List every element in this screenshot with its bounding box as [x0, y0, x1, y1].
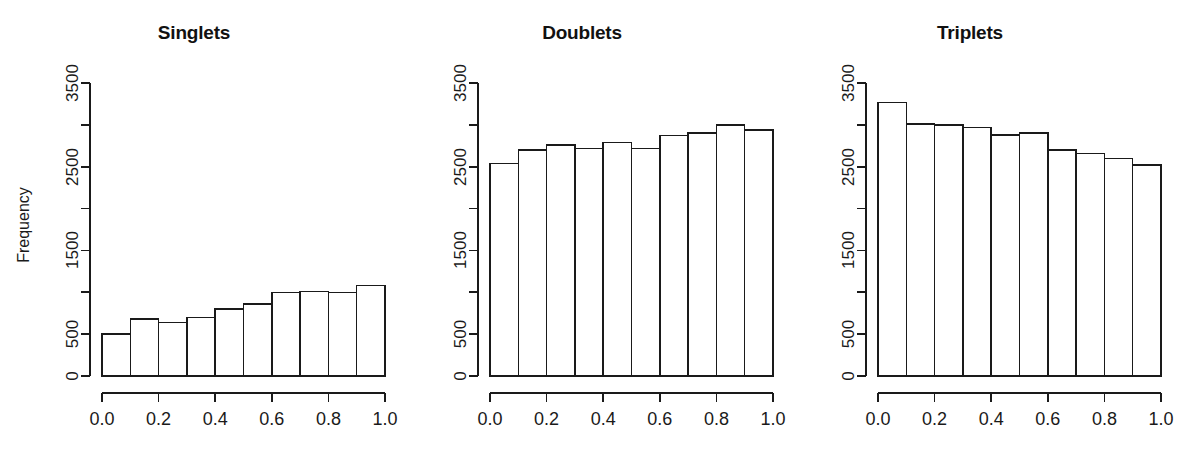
- y-tick-label: 1500: [63, 224, 83, 276]
- x-tick-label: 0.8: [298, 409, 358, 430]
- x-tick-label: 0.0: [460, 409, 520, 430]
- plot-area: [776, 0, 1164, 453]
- histogram-bar: [187, 317, 215, 376]
- y-tick-label: 1500: [839, 224, 859, 276]
- histogram-bar: [716, 125, 744, 376]
- histogram-bar: [660, 136, 688, 376]
- histogram-bar: [102, 334, 130, 376]
- y-tick-label: 500: [451, 308, 471, 360]
- y-tick-label: 3500: [451, 57, 471, 109]
- histogram-bar: [1048, 150, 1076, 376]
- histogram-bar: [878, 102, 906, 376]
- chart-panel-triplets: Triplets05001500250035000.00.20.40.60.81…: [776, 0, 1164, 453]
- histogram-bar: [963, 127, 991, 376]
- histogram-bar: [745, 130, 773, 376]
- histogram-bar: [575, 148, 603, 376]
- histogram-bar: [518, 150, 546, 376]
- x-tick-label: 1.0: [1131, 409, 1178, 430]
- x-tick-label: 0.2: [905, 409, 965, 430]
- histogram-bar: [935, 125, 963, 376]
- x-tick-label: 0.0: [72, 409, 132, 430]
- histogram-bar: [906, 124, 934, 376]
- histogram-bar: [130, 319, 158, 376]
- y-tick-label: 500: [63, 308, 83, 360]
- x-tick-label: 0.8: [686, 409, 746, 430]
- histogram-bar: [603, 142, 631, 376]
- y-axis-label: Frequency: [14, 170, 34, 280]
- histogram-bar: [357, 286, 385, 376]
- chart-panel-singlets: Singlets05001500250035000.00.20.40.60.81…: [0, 0, 388, 453]
- plot-area: [388, 0, 776, 453]
- x-tick-label: 0.8: [1074, 409, 1134, 430]
- histogram-bar: [215, 309, 243, 376]
- histogram-bar: [688, 133, 716, 376]
- x-tick-label: 0.6: [1018, 409, 1078, 430]
- y-tick-label: 3500: [63, 57, 83, 109]
- histogram-bar: [244, 304, 272, 376]
- x-tick-label: 0.2: [129, 409, 189, 430]
- x-tick-label: 0.0: [848, 409, 908, 430]
- histogram-bar: [1076, 153, 1104, 376]
- histogram-bar: [1133, 165, 1161, 376]
- y-tick-label: 500: [839, 308, 859, 360]
- plot-area: [0, 0, 388, 453]
- y-tick-label: 2500: [63, 141, 83, 193]
- y-tick-label: 2500: [839, 141, 859, 193]
- histogram-bar: [1104, 158, 1132, 376]
- histogram-bar: [991, 135, 1019, 376]
- histogram-bar: [632, 148, 660, 376]
- y-tick-label: 2500: [451, 141, 471, 193]
- x-tick-label: 0.6: [630, 409, 690, 430]
- y-tick-label: 3500: [839, 57, 859, 109]
- histogram-bar: [300, 291, 328, 376]
- x-tick-label: 0.4: [185, 409, 245, 430]
- histogram-bar: [1020, 133, 1048, 376]
- chart-panel-doublets: Doublets05001500250035000.00.20.40.60.81…: [388, 0, 776, 453]
- x-tick-label: 0.6: [242, 409, 302, 430]
- y-tick-label: 1500: [451, 224, 471, 276]
- histogram-bar: [490, 163, 518, 376]
- x-tick-label: 0.4: [573, 409, 633, 430]
- histogram-bar: [159, 322, 187, 376]
- x-tick-label: 0.4: [961, 409, 1021, 430]
- histogram-bar: [328, 292, 356, 376]
- histogram-bar: [547, 145, 575, 376]
- histogram-bar: [272, 292, 300, 376]
- x-tick-label: 0.2: [517, 409, 577, 430]
